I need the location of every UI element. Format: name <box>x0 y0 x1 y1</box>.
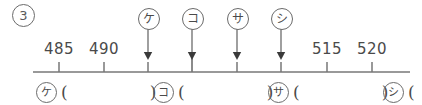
answer-paren-open: ( <box>178 84 185 101</box>
answer-item-コ: コ() <box>153 80 273 105</box>
worksheet-canvas: 3 485490515520 ケコサシ ケ()コ()サ()シ() <box>0 0 422 105</box>
arrow-head <box>188 52 196 60</box>
answer-marker-ケ: ケ <box>36 82 57 103</box>
answer-item-サ: サ() <box>268 80 388 105</box>
answer-item-ケ: ケ() <box>36 80 156 105</box>
answer-item-シ: シ() <box>383 80 422 105</box>
answer-marker-サ: サ <box>268 82 289 103</box>
tick-label-515: 515 <box>312 42 342 57</box>
arrow-head <box>277 52 285 60</box>
tick-label-490: 490 <box>89 42 119 57</box>
marker-コ: コ <box>182 8 204 30</box>
marker-シ: シ <box>271 8 293 30</box>
arrow-head <box>233 52 241 60</box>
answer-paren-open: ( <box>61 84 68 101</box>
tick-label-520: 520 <box>357 42 387 57</box>
marker-ケ: ケ <box>138 8 160 30</box>
tick-label-485: 485 <box>44 42 74 57</box>
arrow-group <box>144 28 285 60</box>
marker-サ: サ <box>227 8 249 30</box>
answer-marker-コ: コ <box>153 82 174 103</box>
answer-marker-シ: シ <box>383 82 404 103</box>
answer-paren-open: ( <box>408 84 415 101</box>
arrow-head <box>144 52 152 60</box>
answer-paren-open: ( <box>293 84 300 101</box>
answer-row: ケ()コ()サ()シ() <box>0 80 422 105</box>
